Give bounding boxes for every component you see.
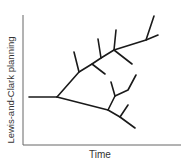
upper-twig-2 — [92, 64, 105, 74]
lower-sub-branch — [108, 75, 136, 110]
tree-branches — [29, 16, 158, 128]
upper-twig-5 — [114, 50, 132, 64]
upper-twig-4 — [114, 30, 116, 50]
x-axis-label: Time — [89, 149, 111, 160]
branching-tree-diagram — [0, 0, 188, 166]
lower-twig-2 — [120, 105, 128, 117]
upper-twig-1 — [74, 52, 79, 72]
upper-branch — [57, 35, 158, 97]
lower-twig-1 — [111, 82, 115, 96]
upper-twig-3 — [98, 39, 101, 58]
y-axis-label: Lewis-and-Clark planning — [5, 36, 16, 143]
